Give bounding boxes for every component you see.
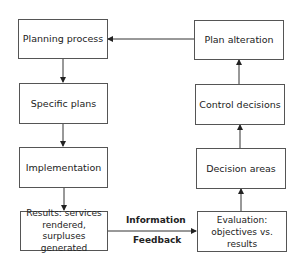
feedback-label: Feedback [133, 235, 181, 245]
box-control-decisions: Control decisions [195, 84, 285, 125]
box-implementation: Implementation [19, 147, 108, 188]
box-label: Results: services rendered, surpluses ge… [24, 208, 104, 254]
box-plan-alteration: Plan alteration [194, 20, 284, 60]
box-decision-areas: Decision areas [196, 148, 286, 189]
box-label: Implementation [26, 162, 101, 174]
box-planning-process: Planning process [18, 19, 108, 59]
box-label: Specific plans [31, 98, 96, 110]
box-results: Results: services rendered, surpluses ge… [20, 211, 108, 251]
box-label: Planning process [23, 33, 103, 45]
box-label: Plan alteration [204, 34, 273, 46]
box-evaluation: Evaluation: objectives vs. results [197, 211, 287, 252]
information-label: Information [126, 215, 186, 225]
box-label: Decision areas [206, 163, 276, 175]
box-label: Control decisions [199, 99, 280, 111]
box-label: Evaluation: objectives vs. results [201, 214, 283, 250]
box-specific-plans: Specific plans [19, 83, 108, 124]
